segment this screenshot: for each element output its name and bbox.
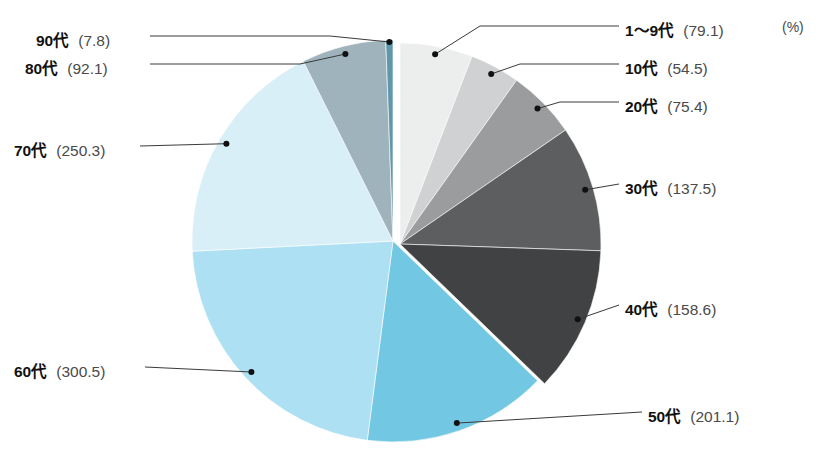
pie-label-30dai: 30代(137.5) (625, 179, 716, 197)
pie-chart-figure: 1〜9代(79.1) (%) 10代(54.5) 20代(75.4) 30代(1… (0, 0, 831, 454)
leader-dot-80代 (342, 51, 348, 57)
leader-line-20代 (538, 102, 620, 109)
leader-line-70代 (140, 144, 226, 146)
pie-label-90dai: 90代(7.8) (36, 31, 110, 49)
pie-label-10dai: 10代(54.5) (625, 59, 708, 77)
leader-dot-1〜9代 (432, 51, 438, 57)
leader-dot-10代 (488, 71, 494, 77)
leader-dot-20代 (535, 106, 541, 112)
pie-label-70dai: 70代(250.3) (14, 141, 105, 159)
pie-label-20dai: 20代(75.4) (625, 97, 708, 115)
pie-slices-group (192, 40, 601, 442)
leader-line-90代 (150, 36, 389, 42)
pie-label-80dai: 80代(92.1) (25, 59, 108, 77)
leader-dot-40代 (575, 316, 581, 322)
leader-line-60代 (145, 367, 251, 372)
leader-dot-50代 (454, 420, 460, 426)
pie-chart-svg: 1〜9代(79.1) (%) 10代(54.5) 20代(75.4) 30代(1… (0, 0, 831, 454)
leader-line-10代 (491, 64, 619, 74)
pie-label-1-9dai: 1〜9代(79.1) (625, 21, 724, 39)
leader-dot-60代 (248, 369, 254, 375)
pie-slice-60代 (192, 241, 393, 440)
pie-label-50dai: 50代(201.1) (648, 407, 739, 425)
pie-label-40dai: 40代(158.6) (625, 300, 716, 318)
leader-line-1〜9代 (435, 26, 619, 54)
pie-label-60dai: 60代(300.5) (14, 362, 105, 380)
leader-dot-70代 (223, 141, 229, 147)
leader-dot-30代 (582, 187, 588, 193)
unit-label: (%) (782, 19, 804, 35)
leader-dot-90代 (386, 39, 392, 45)
